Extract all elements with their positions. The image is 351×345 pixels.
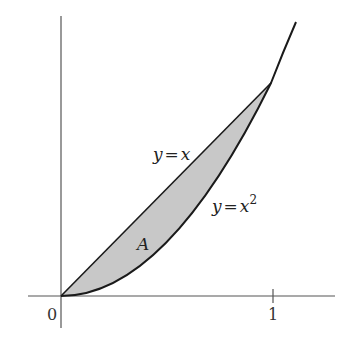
- tick-label-0: 0: [47, 305, 57, 324]
- label-y-equals-x: y=x: [152, 144, 191, 164]
- label-y-equals-x-squared: y=x2: [211, 193, 257, 216]
- area-diagram: y=x y=x2 A 0 1: [0, 0, 351, 345]
- line-y-equals-x: [61, 83, 271, 296]
- tick-label-1: 1: [268, 305, 278, 324]
- region-label-a: A: [135, 234, 149, 254]
